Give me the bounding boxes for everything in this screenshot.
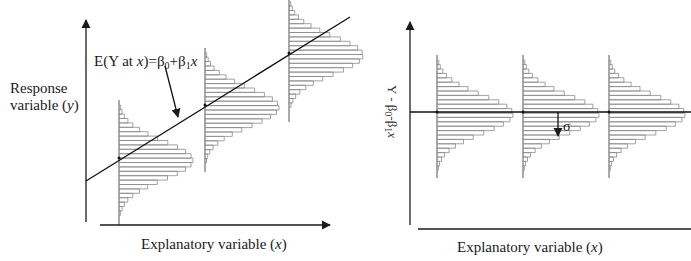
histogram-bar: [609, 82, 631, 86]
right-panel: [410, 22, 691, 229]
histogram-bar: [289, 50, 362, 54]
histogram-bar: [289, 85, 306, 89]
histogram-bar: [609, 139, 636, 143]
histogram-bar: [289, 68, 343, 72]
histogram-bar: [119, 185, 148, 189]
histogram-bar: [523, 104, 593, 108]
histogram-bar: [205, 150, 210, 154]
histogram-bar: [289, 99, 293, 103]
right-x-axis-label: Explanatory variable (x): [457, 239, 603, 256]
left-conditional-distributions: [118, 0, 363, 225]
histogram-bar: [289, 19, 304, 23]
histogram-bar: [437, 95, 489, 99]
histogram-bar: [289, 63, 353, 67]
histogram-bar: [205, 75, 226, 79]
histogram-bar: [523, 113, 599, 117]
histogram-bar: [523, 95, 575, 99]
histogram-bar: [609, 104, 679, 108]
histogram-bar: [119, 123, 133, 127]
histogram-bar: [523, 144, 541, 148]
histogram-bar: [119, 193, 133, 197]
histogram-bar: [609, 131, 656, 135]
left-y-axis-label: Response variable (y): [10, 80, 79, 114]
right-y-axis-label: Y - β0-β1x: [384, 85, 401, 138]
histogram-bar: [609, 100, 671, 104]
histogram-bar: [205, 114, 271, 118]
left-panel: [86, 0, 363, 225]
histogram-bar: [119, 163, 191, 167]
histogram-bar: [609, 122, 675, 126]
histogram-bar: [523, 122, 589, 126]
histogram-bar: [205, 92, 264, 96]
histogram-bar: [609, 95, 661, 99]
histogram-bar: [289, 59, 359, 63]
histogram-bar: [609, 117, 682, 121]
histogram-bar: [119, 114, 124, 118]
histogram-bar: [523, 91, 564, 95]
histogram-bar: [437, 104, 507, 108]
histogram-bar: [205, 123, 252, 127]
histogram-bar: [523, 87, 554, 91]
histogram-bar: [119, 189, 139, 193]
histogram-bar: [523, 78, 538, 82]
histogram-bar: [205, 70, 219, 74]
histogram-bar: [119, 171, 177, 175]
histogram-bar: [523, 126, 580, 130]
histogram-bar: [609, 157, 614, 161]
histogram-bar: [289, 28, 320, 32]
histogram-bar: [119, 198, 128, 202]
histogram-bar: [119, 119, 128, 123]
histogram-bar: [119, 167, 186, 171]
histogram-bar: [289, 11, 295, 15]
histogram-bar: [205, 66, 214, 70]
histogram-bar: [289, 90, 300, 94]
sigma-label: σ: [563, 118, 571, 135]
histogram-bar: [609, 78, 624, 82]
histogram-bar: [523, 82, 545, 86]
histogram-bar: [437, 157, 442, 161]
histogram-bar: [205, 141, 218, 145]
histogram-bar: [523, 69, 529, 73]
left-x-axis-label: Explanatory variable (x): [141, 236, 287, 253]
regression-diagram: [0, 0, 691, 261]
histogram-bar: [289, 41, 350, 45]
histogram-bar: [437, 100, 499, 104]
histogram-bar: [289, 72, 333, 76]
histogram-bar: [437, 148, 449, 152]
histogram-bar: [523, 117, 596, 121]
histogram-bar: [289, 81, 313, 85]
histogram-bar: [437, 78, 452, 82]
histogram-bar: [437, 131, 484, 135]
histogram-bar: [523, 135, 559, 139]
histogram-bar: [289, 77, 323, 81]
y-label-line1: Response: [10, 80, 79, 97]
histogram-bar: [205, 110, 277, 114]
histogram-bar: [205, 119, 262, 123]
histogram-bar: [437, 113, 513, 117]
histogram-bar: [437, 126, 494, 130]
histogram-bar: [289, 94, 296, 98]
histogram-bar: [437, 144, 455, 148]
histogram-bar: [609, 148, 621, 152]
histogram-bar: [437, 153, 445, 157]
histogram-bar: [119, 145, 178, 149]
regression-equation: E(Y at x)=β0+β1x: [94, 53, 197, 70]
histogram-bar: [523, 100, 585, 104]
histogram-bar: [119, 132, 148, 136]
histogram-bar: [609, 91, 650, 95]
histogram-bar: [119, 176, 168, 180]
histogram-bar: [609, 69, 615, 73]
histogram-bar: [205, 101, 278, 105]
histogram-bar: [205, 79, 235, 83]
histogram-bar: [609, 144, 627, 148]
regression-line: [86, 17, 350, 181]
histogram-bar: [609, 73, 619, 77]
histogram-bar: [205, 136, 224, 140]
histogram-bar: [609, 113, 685, 117]
histogram-bar: [523, 148, 535, 152]
right-residual-distributions: [436, 55, 685, 178]
y-label-line2: variable (y): [10, 97, 79, 114]
histogram-bar: [205, 106, 279, 110]
histogram-bar: [119, 149, 186, 153]
histogram-bar: [609, 153, 617, 157]
